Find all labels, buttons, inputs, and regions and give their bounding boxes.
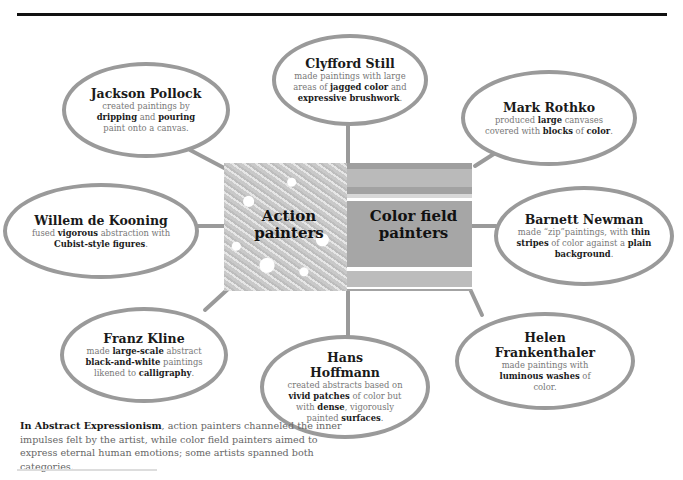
footnote-bold: In Abstract Expressionism [20, 420, 162, 431]
connector-frankenthaler [470, 289, 482, 315]
artist-description: created paintings by dripping and pourin… [86, 101, 206, 134]
bubble-helen-frankenthaler: Helen Frankenthaler made paintings with … [455, 312, 635, 410]
bubble-franz-kline: Franz Kline made large-scale abstract bl… [60, 307, 228, 403]
bubble-jackson-pollock: Jackson Pollock created paintings by dri… [62, 62, 230, 158]
action-painters-label: Action painters [244, 208, 334, 242]
artist-name: Helen Frankenthaler [490, 330, 600, 360]
artist-description: made large-scale abstract black-and-whit… [79, 346, 209, 379]
artist-description: created abstracts based on vivid patches… [283, 380, 408, 424]
bubble-barnett-newman: Barnett Newman made “zip”paintings, with… [494, 186, 674, 286]
bottom-rule [17, 469, 157, 471]
connector-kline [205, 289, 228, 310]
artist-description: produced large canvases covered with blo… [484, 115, 614, 137]
connector-pollock [190, 150, 228, 170]
bubble-mark-rothko: Mark Rothko produced large canvases cove… [461, 70, 637, 166]
footnote-caption: In Abstract Expressionism, action painte… [20, 419, 350, 473]
artist-name: Clyfford Still [305, 56, 394, 71]
color-field-painters-label: Color field painters [361, 208, 466, 242]
artist-name: Hans Hoffmann [300, 350, 390, 380]
bubble-willem-de-kooning: Willem de Kooning fused vigorous abstrac… [3, 183, 199, 279]
artist-name: Jackson Pollock [91, 86, 202, 101]
artist-name: Barnett Newman [525, 212, 644, 227]
artist-description: made paintings with luminous washes of c… [490, 360, 600, 393]
artist-description: made paintings with large areas of jagge… [290, 71, 410, 104]
artist-name: Willem de Kooning [34, 213, 168, 228]
bubble-clyfford-still: Clyfford Still made paintings with large… [272, 34, 428, 126]
artist-name: Franz Kline [103, 331, 184, 346]
artist-description: fused vigorous abstraction with Cubist-s… [31, 228, 171, 250]
central-painting-image: Action painters Color field painters [224, 163, 472, 291]
artist-description: made “zip”paintings, with thin stripes o… [517, 227, 652, 260]
artist-name: Mark Rothko [503, 100, 595, 115]
